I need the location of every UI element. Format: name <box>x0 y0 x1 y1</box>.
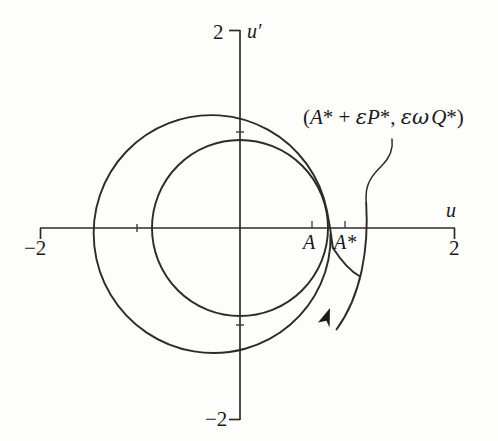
u-axis-min-label: −2 <box>24 238 46 259</box>
annotation-comma: , <box>390 105 401 129</box>
u-axis-name-label: u <box>446 200 456 220</box>
annotation-Q-star: * <box>446 105 457 129</box>
spiral-outer-terminal-arc <box>337 203 367 330</box>
amplitude-A-star-label: A* <box>334 232 356 252</box>
annotation-plus: + <box>333 105 355 129</box>
annotation-epsilon-second: ε <box>401 105 412 129</box>
annotation-A-star: * <box>323 105 334 129</box>
amplitude-A-label: A <box>303 232 315 252</box>
perturbed-coordinate-annotation: (A* + εP*, εωQ*) <box>303 107 464 128</box>
annotation-Q: Q <box>431 105 446 129</box>
annotation-P-star: * <box>380 105 391 129</box>
phase-plane-diagram <box>0 0 498 441</box>
annotation-P: P <box>367 105 380 129</box>
annotation-omega: ω <box>412 105 429 129</box>
figure-container: −2 2 2 −2 u u′ A A* (A* + εP*, εωQ*) <box>0 0 498 441</box>
annotation-epsilon-first: ε <box>356 105 367 129</box>
annotation-A: A <box>310 105 323 129</box>
uprime-axis-max-label: 2 <box>213 22 224 43</box>
uprime-axis-name-label: u′ <box>247 21 261 41</box>
outward-spiral-trajectory <box>94 115 333 353</box>
annotation-close-paren: ) <box>457 105 464 129</box>
direction-arrowhead <box>318 308 330 328</box>
u-axis-max-label: 2 <box>449 238 460 259</box>
uprime-axis-min-label: −2 <box>205 409 227 430</box>
annotation-open-paren: ( <box>303 105 310 129</box>
annotation-leader-line <box>366 139 392 203</box>
